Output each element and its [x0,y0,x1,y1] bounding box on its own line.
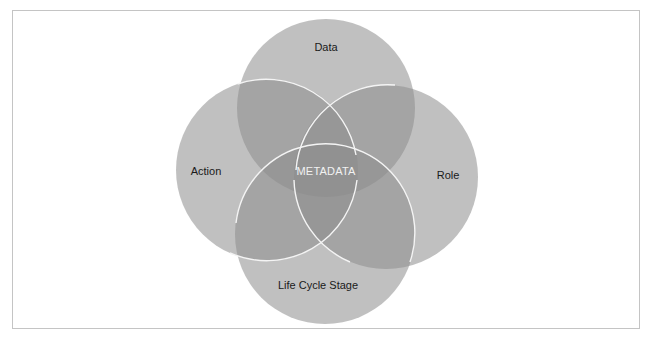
lifecycle-label: Life Cycle Stage [278,279,358,291]
action-label: Action [191,165,222,177]
role-label: Role [437,169,460,181]
data-label: Data [314,41,337,53]
metadata-center-label: METADATA [296,165,355,177]
